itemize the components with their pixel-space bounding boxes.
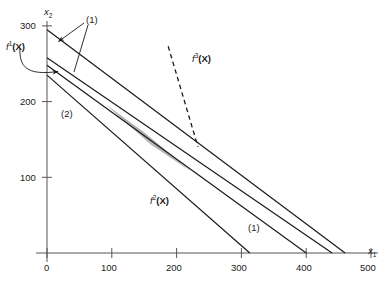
label-f3-arg: (X)	[198, 53, 211, 64]
constraint-line-1-lower	[47, 75, 250, 253]
x-tick-label-0: 0	[44, 262, 49, 273]
label-f1-arg: (X)	[12, 41, 25, 52]
leader-line-1-top-b	[74, 25, 88, 72]
constraint-line-2	[47, 58, 332, 253]
y-axis-title-sub: 2	[49, 12, 53, 19]
constraint-line-f1	[47, 65, 306, 253]
y-tick-label-200: 200	[20, 96, 36, 107]
y-tick-label-300: 300	[20, 20, 36, 31]
x-tick-label-400: 400	[296, 262, 312, 273]
x-tick-label-200: 200	[166, 262, 182, 273]
x-tick-label-300: 300	[231, 262, 247, 273]
x-axis-title: x1	[368, 245, 376, 258]
label-f1: f1(X)	[6, 40, 25, 52]
label-f2: f2(X)	[150, 194, 169, 206]
label-f3: f3(X)	[192, 52, 211, 64]
label-constraint-1-top: (1)	[86, 14, 98, 25]
y-tick-label-100: 100	[20, 172, 36, 183]
x-tick-label-500: 500	[360, 262, 376, 273]
x-axis-title-sub: 1	[373, 251, 377, 258]
linear-programming-diagram: 300 200 100 0 100 200 300 400 500 x2 x1 …	[0, 0, 382, 288]
label-constraint-2: (2)	[61, 108, 73, 119]
label-f2-arg: (X)	[156, 195, 169, 206]
y-axis-title: x2	[44, 6, 52, 19]
label-constraint-1-bottom: (1)	[248, 222, 260, 233]
plot-svg	[0, 0, 382, 288]
x-tick-label-100: 100	[101, 262, 117, 273]
leader-line-1-top-a	[59, 23, 85, 42]
